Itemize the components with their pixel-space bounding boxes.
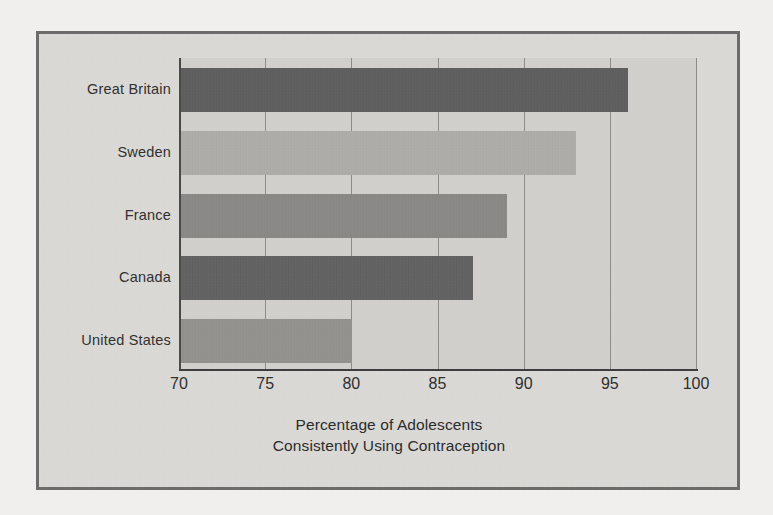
y-axis-line bbox=[179, 58, 181, 371]
bar-canada bbox=[180, 256, 473, 300]
bar-texture bbox=[180, 68, 628, 112]
x-tick-label-75: 75 bbox=[235, 375, 295, 393]
axis-caption: Percentage of Adolescents Consistently U… bbox=[99, 414, 679, 456]
bar-texture bbox=[180, 256, 473, 300]
x-tick-label-100: 100 bbox=[666, 375, 726, 393]
axis-caption-line-2: Consistently Using Contraception bbox=[99, 435, 679, 456]
category-label-sweden: Sweden bbox=[45, 144, 171, 160]
plot-area bbox=[179, 58, 696, 371]
bar-texture bbox=[180, 131, 576, 175]
bar-france bbox=[180, 194, 507, 238]
axis-caption-line-1: Percentage of Adolescents bbox=[99, 414, 679, 435]
bar-texture bbox=[180, 194, 507, 238]
x-tick-label-70: 70 bbox=[149, 375, 209, 393]
x-tick-label-80: 80 bbox=[321, 375, 381, 393]
bar-sweden bbox=[180, 131, 576, 175]
category-label-france: France bbox=[45, 207, 171, 223]
x-tick-label-85: 85 bbox=[408, 375, 468, 393]
category-label-great-britain: Great Britain bbox=[45, 81, 171, 97]
bar-united-states bbox=[180, 319, 352, 363]
gridline-100 bbox=[696, 58, 697, 369]
x-tick-label-90: 90 bbox=[494, 375, 554, 393]
bar-great-britain bbox=[180, 68, 628, 112]
figure-inner: Great BritainSwedenFranceCanadaUnited St… bbox=[39, 34, 737, 487]
category-label-canada: Canada bbox=[45, 269, 171, 285]
x-axis-line bbox=[179, 369, 698, 371]
x-tick-label-95: 95 bbox=[580, 375, 640, 393]
category-label-united-states: United States bbox=[45, 332, 171, 348]
figure-frame: Great BritainSwedenFranceCanadaUnited St… bbox=[36, 31, 740, 490]
bar-texture bbox=[180, 319, 352, 363]
